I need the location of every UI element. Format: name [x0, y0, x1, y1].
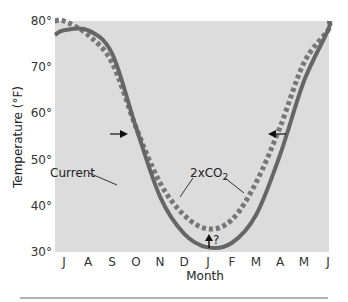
x-axis-label: Month — [186, 269, 224, 283]
x-tick-label: O — [131, 255, 140, 269]
co2-label: 2xCO2 — [190, 166, 228, 182]
x-tick-label: F — [229, 255, 236, 269]
y-tick-label: 60° — [31, 106, 52, 120]
y-tick-label: 50° — [31, 153, 52, 167]
y-tick-label: 80° — [31, 14, 52, 28]
temperature-chart: 30°40°50°60°70°80° JASONDJFMAMJ Current … — [0, 0, 348, 302]
y-tick-label: 70° — [31, 60, 52, 74]
x-tick-label: M — [251, 255, 261, 269]
y-tick-label: 40° — [31, 199, 52, 213]
question-mark: ? — [213, 233, 219, 247]
y-axis-ticks: 30°40°50°60°70°80° — [31, 14, 52, 259]
x-tick-label: A — [276, 255, 285, 269]
x-tick-label: S — [108, 255, 116, 269]
x-tick-label: A — [84, 255, 93, 269]
y-axis-label: Temperature (°F) — [11, 86, 25, 189]
x-tick-label: N — [156, 255, 165, 269]
x-tick-label: J — [325, 255, 330, 269]
x-tick-label: D — [179, 255, 188, 269]
x-tick-label: J — [61, 255, 66, 269]
y-tick-label: 30° — [31, 245, 52, 259]
current-label: Current — [50, 166, 95, 180]
x-tick-label: J — [205, 255, 210, 269]
x-tick-label: M — [299, 255, 309, 269]
x-axis-ticks: JASONDJFMAMJ — [61, 255, 330, 269]
